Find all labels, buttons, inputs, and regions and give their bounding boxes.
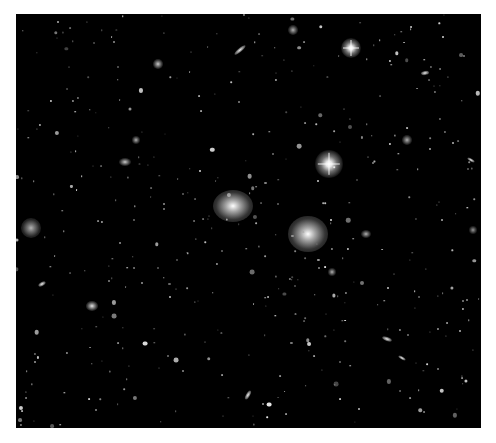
faint-galaxy (164, 134, 165, 135)
faint-galaxy (360, 281, 364, 285)
faint-galaxy (415, 362, 416, 363)
faint-galaxy (274, 47, 275, 48)
faint-galaxy (54, 255, 56, 257)
faint-galaxy (304, 122, 306, 124)
faint-galaxy (264, 255, 266, 257)
faint-galaxy (117, 79, 118, 80)
faint-galaxy (325, 313, 326, 314)
faint-galaxy (318, 267, 320, 269)
faint-galaxy (341, 320, 342, 321)
faint-galaxy (469, 161, 471, 163)
faint-galaxy (283, 60, 284, 61)
faint-galaxy (371, 135, 373, 137)
faint-galaxy (303, 320, 305, 322)
faint-galaxy (34, 361, 36, 363)
faint-galaxy (262, 403, 264, 405)
faint-galaxy (308, 350, 309, 351)
faint-galaxy (57, 38, 58, 39)
faint-galaxy (164, 33, 165, 34)
faint-galaxy (16, 175, 19, 179)
faint-galaxy (169, 296, 171, 298)
faint-galaxy (401, 31, 403, 33)
faint-galaxy (21, 178, 22, 179)
faint-galaxy (297, 144, 302, 149)
faint-galaxy (177, 178, 179, 180)
faint-galaxy (54, 31, 57, 34)
faint-galaxy (461, 100, 462, 101)
faint-galaxy (95, 112, 96, 113)
faint-galaxy (109, 371, 110, 372)
faint-galaxy (216, 263, 218, 265)
faint-galaxy (19, 418, 23, 422)
faint-galaxy (93, 42, 95, 44)
faint-galaxy (398, 153, 399, 154)
faint-galaxy (77, 97, 79, 99)
faint-galaxy (439, 68, 441, 70)
faint-galaxy (358, 408, 360, 410)
faint-galaxy (360, 22, 362, 24)
faint-galaxy (353, 281, 354, 282)
faint-galaxy (429, 147, 431, 149)
faint-galaxy (75, 111, 77, 113)
faint-galaxy (27, 137, 28, 138)
faint-galaxy (373, 44, 375, 46)
faint-galaxy (208, 215, 209, 216)
faint-galaxy (163, 277, 164, 278)
faint-galaxy (291, 70, 292, 71)
faint-galaxy (332, 294, 335, 297)
faint-galaxy (468, 319, 469, 320)
faint-galaxy (457, 409, 458, 410)
faint-galaxy (189, 168, 190, 169)
faint-galaxy (387, 329, 388, 330)
faint-galaxy (384, 300, 385, 301)
faint-galaxy (112, 258, 113, 259)
faint-galaxy (122, 15, 124, 17)
faint-galaxy (394, 34, 396, 36)
faint-galaxy (457, 140, 459, 142)
elliptical-galaxy (153, 59, 163, 69)
faint-galaxy (267, 417, 269, 419)
faint-galaxy (66, 352, 68, 354)
faint-galaxy (473, 349, 474, 350)
faint-galaxy (379, 39, 381, 41)
faint-galaxy (116, 30, 117, 31)
faint-galaxy (349, 365, 351, 367)
faint-galaxy (297, 279, 298, 280)
faint-galaxy (391, 64, 393, 66)
elliptical-galaxy (132, 136, 140, 144)
faint-galaxy (75, 150, 77, 152)
faint-galaxy (44, 236, 45, 237)
faint-galaxy (250, 270, 255, 275)
faint-galaxy (132, 256, 133, 257)
elliptical-galaxy (21, 218, 41, 238)
faint-galaxy (442, 293, 444, 295)
faint-galaxy (275, 234, 276, 235)
faint-galaxy (330, 219, 332, 221)
faint-galaxy (194, 302, 195, 303)
faint-galaxy (207, 46, 209, 48)
faint-galaxy (108, 280, 110, 282)
faint-galaxy (139, 88, 143, 92)
faint-galaxy (389, 143, 391, 145)
faint-galaxy (333, 329, 334, 330)
faint-galaxy (272, 153, 274, 155)
faint-galaxy (133, 267, 135, 269)
faint-galaxy (248, 354, 249, 355)
faint-galaxy (22, 30, 23, 31)
faint-galaxy (423, 411, 425, 413)
faint-galaxy (471, 168, 472, 169)
faint-galaxy (53, 194, 54, 195)
faint-galaxy (168, 282, 170, 284)
faint-galaxy (387, 287, 389, 289)
faint-galaxy (254, 424, 255, 425)
faint-galaxy (189, 71, 191, 73)
faint-galaxy (319, 114, 322, 117)
faint-galaxy (141, 282, 143, 284)
faint-galaxy (381, 249, 383, 251)
faint-galaxy (366, 59, 367, 60)
faint-galaxy (175, 411, 177, 413)
faint-galaxy (57, 21, 59, 23)
faint-galaxy (324, 202, 326, 204)
faint-galaxy (429, 79, 431, 81)
faint-galaxy (55, 131, 59, 135)
